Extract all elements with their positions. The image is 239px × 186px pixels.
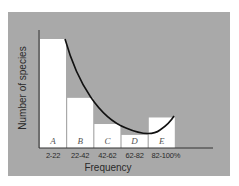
chart-svg [0, 0, 239, 186]
bar-letter-label: A [50, 136, 56, 146]
x-tick-label: 42-62 [98, 151, 116, 160]
bar-letter-label: C [104, 136, 110, 146]
bar-letter-label: B [77, 136, 83, 146]
bar-letter-label: E [159, 136, 165, 146]
x-tick-label: 62-82 [126, 151, 144, 160]
x-axis-label: Frequency [84, 162, 131, 173]
y-axis-label: Number of species [17, 46, 28, 129]
x-tick-label: 2-22 [46, 151, 60, 160]
x-tick-label: 22-42 [71, 151, 89, 160]
bar-a [40, 39, 66, 148]
bar-letter-label: D [131, 136, 138, 146]
x-tick-label: 82-100% [151, 151, 180, 160]
